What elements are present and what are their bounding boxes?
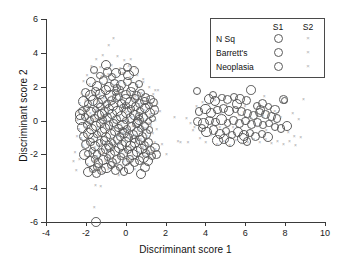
data-point-s2: × xyxy=(82,125,87,130)
data-point-s2: × xyxy=(296,117,301,122)
data-point-s2: × xyxy=(84,73,89,78)
legend-label-neoplasia: Neoplasia xyxy=(216,62,254,72)
data-point-s2: × xyxy=(120,71,125,76)
data-point-s2: × xyxy=(286,130,291,135)
data-point-s2: × xyxy=(135,73,140,78)
data-point-s2: × xyxy=(221,139,226,144)
data-point-s2: × xyxy=(141,117,146,122)
x-axis-title: Discriminant score 1 xyxy=(46,244,325,255)
legend-marker-s1-neoplasia xyxy=(274,62,283,71)
data-point-s2: × xyxy=(106,148,111,153)
x-tick xyxy=(325,222,326,226)
data-point-s2: × xyxy=(124,110,129,115)
data-point-s2: × xyxy=(224,102,229,107)
data-point-s2: × xyxy=(142,108,147,113)
data-point-s2: × xyxy=(164,152,169,157)
legend-label-barretts: Barrett's xyxy=(216,48,247,58)
data-point-s2: × xyxy=(284,96,289,101)
data-point-s2: × xyxy=(94,57,99,62)
data-point-s1 xyxy=(193,87,201,95)
data-point-s2: × xyxy=(292,134,297,139)
data-point-s2: × xyxy=(94,167,99,172)
x-tick-label: -4 xyxy=(33,228,59,238)
y-axis-title: Discriminant score 2 xyxy=(18,46,29,186)
y-tick-label: 6 xyxy=(22,14,38,24)
data-point-s2: × xyxy=(85,162,90,167)
data-point-s2: × xyxy=(99,81,104,86)
data-point-s1 xyxy=(140,163,149,172)
data-point-s2: × xyxy=(129,115,134,120)
data-point-s2: × xyxy=(75,118,80,123)
data-point-s2: × xyxy=(119,96,124,101)
data-point-s2: × xyxy=(281,142,286,147)
data-point-s2: × xyxy=(230,125,235,130)
data-point-s2: × xyxy=(88,111,93,116)
data-point-s2: × xyxy=(227,143,232,148)
data-point-s2: × xyxy=(104,140,109,145)
x-tick-label: 6 xyxy=(232,228,258,238)
data-point-s2: × xyxy=(200,100,205,105)
data-point-s2: × xyxy=(127,156,132,161)
data-point-s2: × xyxy=(148,112,153,117)
data-point-s2: × xyxy=(217,125,222,130)
data-point-s2: × xyxy=(172,115,177,120)
data-point-s2: × xyxy=(80,143,85,148)
data-point-s2: × xyxy=(115,54,120,59)
x-tick-label: -2 xyxy=(73,228,99,238)
data-point-s2: × xyxy=(142,154,147,159)
data-point-s2: × xyxy=(242,104,247,109)
data-point-s2: × xyxy=(106,110,111,115)
data-point-s2: × xyxy=(142,126,147,131)
data-point-s2: × xyxy=(269,141,274,146)
data-point-s2: × xyxy=(77,157,82,162)
data-point-s2: × xyxy=(260,114,265,119)
data-point-s2: × xyxy=(77,101,82,106)
data-point-s2: × xyxy=(116,173,121,178)
data-point-s2: × xyxy=(148,123,153,128)
data-point-s2: × xyxy=(93,117,98,122)
x-tick xyxy=(166,222,167,226)
data-point-s2: × xyxy=(233,138,238,143)
data-point-s1 xyxy=(232,99,242,109)
data-point-s2: × xyxy=(115,162,120,167)
data-point-s2: × xyxy=(185,140,190,145)
data-point-s2: × xyxy=(254,124,259,129)
data-point-s2: × xyxy=(101,96,106,101)
data-point-s2: × xyxy=(98,65,103,70)
data-point-s2: × xyxy=(293,143,298,148)
data-point-s2: × xyxy=(74,168,79,173)
data-point-s2: × xyxy=(89,64,94,69)
data-point-s2: × xyxy=(117,113,122,118)
data-point-s2: × xyxy=(152,140,157,145)
legend-header-s1: S1 xyxy=(267,22,289,32)
data-point-s2: × xyxy=(239,141,244,146)
data-point-s2: × xyxy=(126,64,131,69)
data-point-s2: × xyxy=(147,85,152,90)
data-point-s2: × xyxy=(98,184,103,189)
data-point-s2: × xyxy=(134,141,139,146)
data-point-s2: × xyxy=(86,142,91,147)
x-tick xyxy=(285,222,286,226)
data-point-s2: × xyxy=(150,150,155,155)
data-point-s2: × xyxy=(125,101,130,106)
data-point-s2: × xyxy=(130,124,135,129)
data-point-s2: × xyxy=(88,169,93,174)
data-point-s2: × xyxy=(245,140,250,145)
data-point-s2: × xyxy=(207,102,212,107)
data-point-s2: × xyxy=(218,112,223,117)
data-point-s2: × xyxy=(150,131,155,136)
data-point-s2: × xyxy=(111,36,116,41)
data-point-s2: × xyxy=(92,71,97,76)
data-point-s2: × xyxy=(263,137,268,142)
data-point-s2: × xyxy=(94,126,99,131)
data-point-s2: × xyxy=(155,101,160,106)
data-point-s2: × xyxy=(100,151,105,156)
legend-marker-s1-barretts xyxy=(274,48,283,57)
data-point-s2: × xyxy=(84,134,89,139)
data-point-s2: × xyxy=(81,116,86,121)
data-point-s2: × xyxy=(111,83,116,88)
legend-marker-s1-n-sq xyxy=(274,34,283,43)
data-point-s2: × xyxy=(191,128,196,133)
data-point-s2: × xyxy=(91,159,96,164)
data-point-s2: × xyxy=(278,115,283,120)
